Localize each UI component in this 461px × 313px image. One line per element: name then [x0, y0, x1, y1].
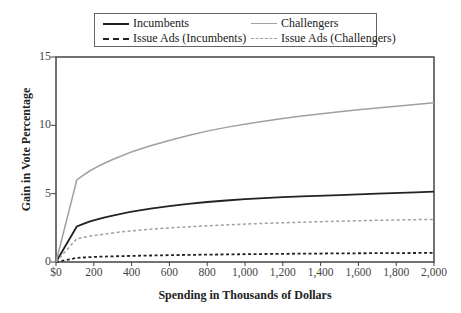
- x-tick-label: $0: [50, 266, 62, 278]
- x-tick-label: 400: [123, 266, 140, 278]
- y-axis-label: Gain in Vote Percentage: [19, 80, 34, 220]
- x-tick-label: 2,000: [421, 266, 447, 278]
- legend-label: Incumbents: [133, 16, 189, 31]
- legend-label: Issue Ads (Challengers): [281, 31, 396, 46]
- legend-swatch-solid-black: [103, 23, 129, 25]
- legend-swatch-solid-gray: [251, 23, 277, 24]
- y-tick-label: 10: [39, 117, 51, 132]
- series-line-incumbents: [56, 192, 434, 262]
- y-tick-label: 15: [39, 49, 51, 64]
- series-line-challengers: [56, 103, 434, 262]
- x-tick-label: 1,200: [270, 266, 296, 278]
- legend-item-challengers: Challengers: [251, 16, 338, 31]
- legend: Incumbents Challengers Issue Ads (Incumb…: [94, 13, 377, 47]
- legend-swatch-dashed-gray: [251, 38, 277, 39]
- x-tick-label: 1,400: [308, 266, 334, 278]
- legend-label: Issue Ads (Incumbents): [133, 31, 246, 46]
- x-tick-label: 1,600: [345, 266, 371, 278]
- series-line-issue-ads-incumbents: [56, 253, 434, 262]
- legend-item-issue-ads-incumbents: Issue Ads (Incumbents): [103, 31, 246, 46]
- legend-swatch-dashed-black: [103, 38, 129, 40]
- legend-label: Challengers: [281, 16, 338, 31]
- legend-item-incumbents: Incumbents: [103, 16, 189, 31]
- x-axis-label: Spending in Thousands of Dollars: [56, 288, 434, 303]
- x-tick-label: 600: [161, 266, 178, 278]
- x-tick-label: 1,000: [232, 266, 258, 278]
- x-tick-label: 1,800: [383, 266, 409, 278]
- x-tick-label: 200: [85, 266, 102, 278]
- data-lines: [56, 103, 434, 262]
- y-tick-label: 5: [45, 186, 51, 201]
- x-tick-label: 800: [199, 266, 216, 278]
- legend-item-issue-ads-challengers: Issue Ads (Challengers): [251, 31, 396, 46]
